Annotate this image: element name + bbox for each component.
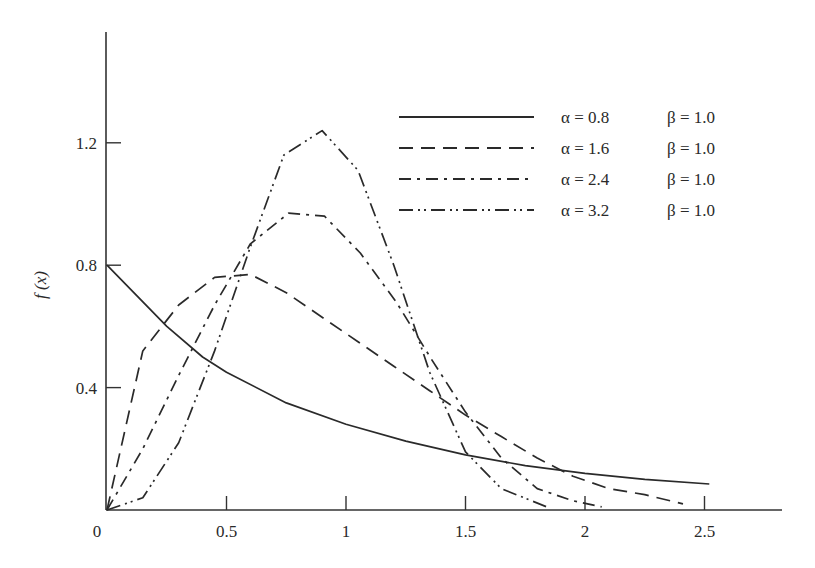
legend: α = 0.8β = 1.0α = 1.6β = 1.0α = 2.4β = 1… [399,108,715,220]
series-line-dash-dot-dot [107,131,547,510]
legend-beta-label: β = 1.0 [667,108,715,127]
y-tick-label: 0.4 [76,379,98,398]
series-line-solid [107,265,709,484]
x-tick-label: 2.5 [694,522,715,541]
x-tick-label: 2 [581,522,590,541]
y-tick-label: 0.8 [76,256,97,275]
legend-alpha-label: α = 2.4 [561,170,610,189]
legend-beta-label: β = 1.0 [667,201,715,220]
legend-alpha-label: α = 1.6 [561,139,609,158]
legend-beta-label: β = 1.0 [667,139,715,158]
chart: 00.511.522.5 0.40.81.2 f (x) α = 0.8β = … [0,0,815,568]
series-lines [107,131,709,510]
x-ticks: 00.511.522.5 [93,496,715,541]
axes [106,32,782,510]
legend-alpha-label: α = 3.2 [561,201,609,220]
y-tick-label: 1.2 [76,134,97,153]
legend-alpha-label: α = 0.8 [561,108,609,127]
x-tick-label: 1.5 [455,522,476,541]
x-tick-label: 1 [342,522,351,541]
x-tick-label: 0 [93,522,102,541]
y-axis-label: f (x) [31,271,50,299]
x-tick-label: 0.5 [216,522,237,541]
y-ticks: 0.40.81.2 [76,134,121,398]
legend-beta-label: β = 1.0 [667,170,715,189]
